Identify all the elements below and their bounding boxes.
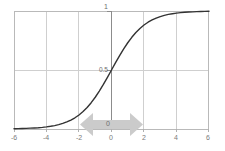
- x-tick-label-0: 0: [109, 134, 113, 142]
- x-tick-label--2: -2: [76, 134, 82, 142]
- x-tick-label-4: 4: [174, 134, 178, 142]
- y-tick-label-0: 0: [106, 120, 110, 128]
- y-tick-label-0point5: 0.5: [99, 66, 108, 74]
- plot-canvas: [0, 0, 225, 151]
- sigmoid-chart-figure: -6 -4 -2 0 2 4 6 1 0.5 0: [0, 0, 225, 151]
- y-tick-label-1: 1: [104, 3, 108, 11]
- x-tick-label-6: 6: [206, 134, 210, 142]
- x-tick-label-2: 2: [142, 134, 146, 142]
- x-tick-label--4: -4: [43, 134, 49, 142]
- x-tick-label--6: -6: [11, 134, 17, 142]
